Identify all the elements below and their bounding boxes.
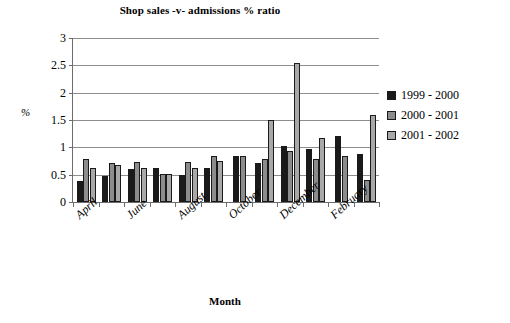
y-axis-tick-label: 1 — [60, 141, 66, 153]
legend-item: 2000 - 2001 — [387, 105, 459, 125]
x-axis-tick — [328, 202, 329, 207]
bar — [217, 161, 223, 202]
legend-item: 2001 - 2002 — [387, 125, 459, 145]
bar — [294, 63, 300, 202]
bar-group — [226, 38, 252, 202]
y-axis-tick-label: 0 — [60, 196, 66, 208]
bar — [153, 168, 159, 202]
legend-item: 1999 - 2000 — [387, 85, 459, 105]
bar-group — [328, 38, 354, 202]
y-axis-tick-label: 2.5 — [51, 59, 66, 71]
bar — [287, 151, 293, 202]
bar-group — [277, 38, 303, 202]
bar — [268, 120, 274, 202]
x-axis-tick — [226, 202, 227, 207]
legend-swatch-icon — [387, 111, 396, 120]
bar — [281, 146, 287, 202]
legend-label: 2000 - 2001 — [401, 108, 459, 123]
legend-label: 1999 - 2000 — [401, 88, 459, 103]
bar — [335, 136, 341, 202]
y-axis-tick-label: 1.5 — [51, 114, 66, 126]
bar — [128, 169, 134, 202]
x-axis-tick — [73, 202, 74, 207]
bar-group — [252, 38, 278, 202]
bar-group — [73, 38, 99, 202]
bar-group — [303, 38, 329, 202]
bar-chart: Shop sales -v- admissions % ratio % 00.5… — [0, 0, 510, 323]
bar — [370, 115, 376, 202]
bar — [115, 165, 121, 202]
y-axis-title: % — [21, 106, 30, 118]
bar-group — [124, 38, 150, 202]
bar-group — [354, 38, 380, 202]
chart-title: Shop sales -v- admissions % ratio — [0, 4, 400, 16]
legend-label: 2001 - 2002 — [401, 128, 459, 143]
bar-group — [175, 38, 201, 202]
bar — [160, 174, 166, 202]
x-axis-tick — [379, 202, 380, 207]
bar — [233, 156, 239, 202]
bar — [77, 181, 83, 202]
bar-group — [99, 38, 125, 202]
bar — [166, 174, 172, 202]
x-axis-tick — [124, 202, 125, 207]
y-axis-tick-label: 0.5 — [51, 169, 66, 181]
bar — [211, 156, 217, 202]
bar — [109, 163, 115, 202]
bar-group — [150, 38, 176, 202]
bar — [102, 176, 108, 202]
x-axis-tick — [277, 202, 278, 207]
legend-swatch-icon — [387, 91, 396, 100]
plot-area: 00.511.522.53 — [72, 38, 379, 203]
x-axis-title: Month — [0, 295, 450, 307]
chart-legend: 1999 - 20002000 - 20012001 - 2002 — [387, 85, 459, 145]
x-axis-tick — [175, 202, 176, 207]
bar — [319, 138, 325, 203]
bar — [179, 175, 185, 202]
bar-group — [201, 38, 227, 202]
legend-swatch-icon — [387, 131, 396, 140]
y-axis-tick-label: 2 — [60, 87, 66, 99]
y-axis-tick-label: 3 — [60, 32, 66, 44]
